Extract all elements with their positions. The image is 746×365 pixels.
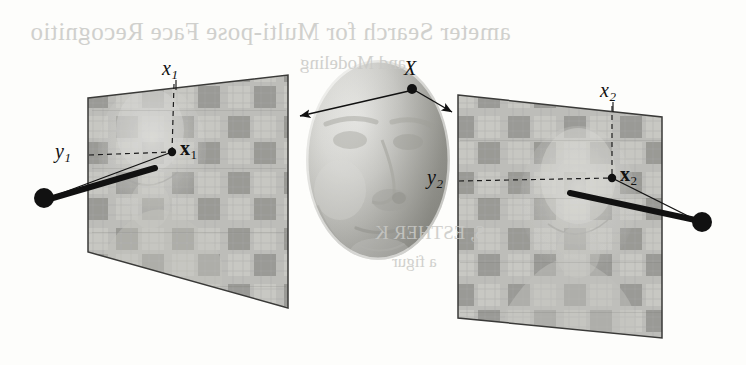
label-left-image-point-sub: 1 [191, 147, 198, 162]
label-left-axis-x1-base: x [162, 57, 171, 79]
right-image-plane [458, 95, 662, 348]
label-left-image-point-x1: x1 [180, 138, 197, 161]
face-scan-3d [306, 60, 450, 266]
scene-point-dot [407, 84, 417, 94]
right-camera-center [692, 212, 712, 232]
left-image-point-dot [168, 148, 176, 156]
label-right-axis-x2: x2 [600, 80, 616, 103]
label-left-axis-y1: y1 [55, 141, 71, 164]
label-right-image-point-base: x [620, 163, 630, 185]
label-right-axis-x2-base: x [600, 79, 609, 101]
label-left-axis-x1-sub: 1 [171, 67, 178, 82]
label-right-axis-y2: y2 [427, 167, 443, 190]
label-right-image-point-sub: 2 [631, 173, 638, 188]
left-image-plane [88, 75, 288, 312]
stereo-projection-figure: X x1 y1 x1 x2 y2 x2 ameter Search for Mu… [0, 0, 746, 365]
label-right-image-point-x2: x2 [620, 164, 637, 187]
label-right-axis-y2-sub: 2 [436, 176, 443, 191]
label-right-axis-x2-sub: 2 [609, 89, 616, 104]
label-left-axis-y1-sub: 1 [64, 150, 71, 165]
label-left-image-point-base: x [180, 137, 190, 159]
label-left-axis-x1: x1 [162, 58, 178, 81]
label-scene-point-X: X [404, 58, 417, 81]
label-left-axis-y1-base: y [55, 140, 64, 162]
left-camera-center [34, 188, 54, 208]
label-scene-point-base: X [404, 57, 416, 79]
right-image-point-dot [608, 174, 616, 182]
label-right-axis-y2-base: y [427, 166, 436, 188]
